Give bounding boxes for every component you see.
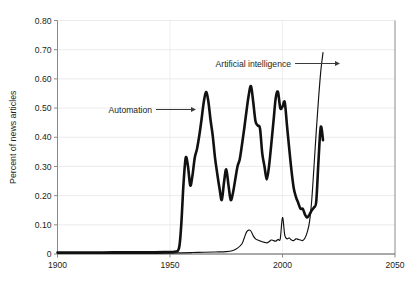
x-tick-label: 1900	[48, 260, 67, 270]
series-line-artificial-intelligence	[58, 53, 324, 254]
y-tick-label: 0.80	[35, 16, 52, 26]
y-tick-label: 0.10	[35, 220, 52, 230]
y-tick-label: 0.30	[35, 162, 52, 172]
x-tick-label: 2050	[385, 260, 404, 270]
y-tick-label: 0.20	[35, 191, 52, 201]
x-tick-label: 2000	[273, 260, 292, 270]
annotation-artificial-intelligence-arrow-icon	[335, 61, 340, 66]
y-tick-label: 0.70	[35, 45, 52, 55]
annotation-automation-label: Automation	[109, 105, 153, 115]
y-tick-label: 0.50	[35, 103, 52, 113]
x-tick-label: 1950	[160, 260, 179, 270]
y-tick-label: 0.40	[35, 132, 52, 142]
chart-figure: 00.100.200.300.400.500.600.700.801900195…	[0, 0, 417, 286]
annotation-artificial-intelligence-label: Artificial intelligence	[216, 59, 292, 69]
series-line-automation	[58, 86, 324, 253]
annotation-automation-arrow-icon	[191, 107, 196, 112]
y-axis-title: Percent of news articles	[8, 90, 18, 184]
y-tick-label: 0	[47, 249, 52, 259]
y-tick-label: 0.60	[35, 74, 52, 84]
news-articles-line-chart: 00.100.200.300.400.500.600.700.801900195…	[0, 0, 417, 286]
